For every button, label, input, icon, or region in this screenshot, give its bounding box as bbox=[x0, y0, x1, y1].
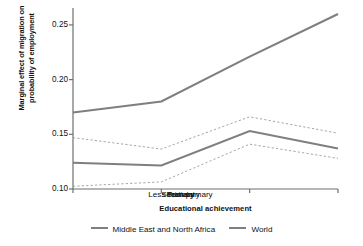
y-axis-title-line1: Marginal effect of migration on bbox=[17, 0, 27, 143]
legend-item-mena: Middle East and North Africa bbox=[91, 224, 216, 233]
legend-label-world: World bbox=[251, 225, 272, 234]
legend-line-icon-world bbox=[229, 227, 246, 229]
x-tick-label: Tertiary bbox=[0, 190, 362, 199]
y-axis-title: Marginal effect of migration on probabil… bbox=[17, 0, 37, 143]
y-tick-label: 0.25 bbox=[42, 21, 68, 29]
y-axis-title-line2: probability of employment bbox=[27, 0, 37, 143]
chart-figure: Marginal effect of migration on probabil… bbox=[0, 0, 363, 246]
chart-legend: Middle East and North Africa World bbox=[0, 224, 363, 234]
legend-line-icon-mena bbox=[91, 227, 108, 229]
x-axis-title: Educational achievement bbox=[73, 204, 338, 213]
legend-label-mena: Middle East and North Africa bbox=[113, 225, 216, 234]
legend-item-world: World bbox=[229, 224, 272, 233]
y-tick-label: 0.15 bbox=[42, 130, 68, 138]
y-tick-label: 0.20 bbox=[42, 76, 68, 84]
